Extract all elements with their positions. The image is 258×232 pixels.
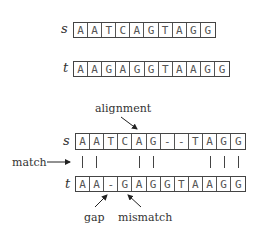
- sequence-alignment-diagram: s AATCAGTAGG t AAGAGGTAAGG alignment s A…: [0, 0, 258, 232]
- arrows-overlay: [0, 0, 258, 232]
- gap-arrow-icon: [95, 195, 107, 207]
- mismatch-arrow-icon: [128, 195, 141, 207]
- alignment-arrow-icon: [121, 117, 137, 129]
